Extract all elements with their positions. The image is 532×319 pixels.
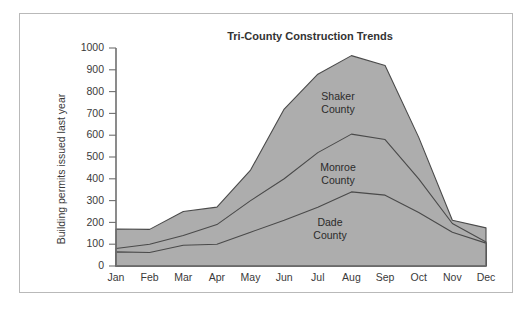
monroe-county-label: MonroeCounty <box>320 161 356 186</box>
dade-county-label-line-1: Dade <box>317 216 342 228</box>
y-tick-label: 400 <box>86 172 104 184</box>
x-tick-label-mar: Mar <box>174 271 193 283</box>
y-tick-label: 200 <box>86 216 104 228</box>
figure-frame: Tri-County Construction Trends Building … <box>19 13 513 293</box>
x-tick-label-jun: Jun <box>276 271 293 283</box>
shaker-county-label-line-1: Shaker <box>321 90 355 102</box>
chart-title: Tri-County Construction Trends <box>227 30 393 42</box>
y-tick-label: 600 <box>86 128 104 140</box>
x-tick-label-nov: Nov <box>443 271 462 283</box>
shaker-county-label-line-2: County <box>321 103 355 115</box>
shaker-county-label: ShakerCounty <box>321 90 355 115</box>
monroe-county-label-line-1: Monroe <box>320 161 356 173</box>
x-tick-label-may: May <box>241 271 262 283</box>
chart-canvas: Tri-County Construction Trends Building … <box>20 14 514 294</box>
y-tick-label: 700 <box>86 107 104 119</box>
y-tick-label: 800 <box>86 85 104 97</box>
chart-title-group: Tri-County Construction Trends <box>227 30 393 42</box>
x-tick-label-dec: Dec <box>477 271 496 283</box>
stacked-area-series <box>116 56 486 266</box>
x-tick-label-aug: Aug <box>342 271 361 283</box>
x-tick-label-feb: Feb <box>141 271 159 283</box>
y-tick-label: 100 <box>86 237 104 249</box>
y-axis-ticks: 01002003004005006007008009001000 <box>81 41 116 271</box>
y-tick-label: 0 <box>98 259 104 271</box>
y-axis-title-group: Building permits issued last year <box>55 93 67 244</box>
x-tick-label-sep: Sep <box>376 271 395 283</box>
y-axis-title: Building permits issued last year <box>55 93 67 244</box>
x-tick-label-jul: Jul <box>311 271 324 283</box>
y-tick-label: 500 <box>86 150 104 162</box>
x-axis-labels: JanFebMarAprMayJunJulAugSepOctNovDec <box>108 271 496 283</box>
x-tick-label-jan: Jan <box>108 271 125 283</box>
dade-county-label-line-2: County <box>313 229 347 241</box>
y-tick-label: 300 <box>86 194 104 206</box>
dade-county-label: DadeCounty <box>313 216 347 241</box>
x-tick-label-apr: Apr <box>209 271 226 283</box>
y-tick-label: 900 <box>86 63 104 75</box>
y-tick-label: 1000 <box>81 41 105 53</box>
area-chart: Tri-County Construction Trends Building … <box>20 14 514 294</box>
monroe-county-label-line-2: County <box>321 174 355 186</box>
x-tick-label-oct: Oct <box>411 271 427 283</box>
